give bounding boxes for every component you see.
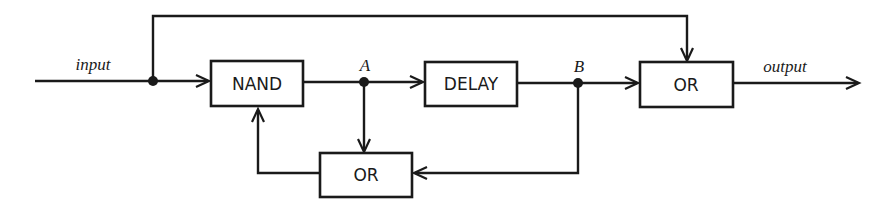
feedback-wire — [258, 110, 320, 173]
nand-label: NAND — [232, 74, 282, 94]
logic-diagram: NAND DELAY OR OR input A B output — [0, 0, 883, 212]
delay-label: DELAY — [444, 74, 499, 94]
or-feedback-label: OR — [353, 165, 378, 185]
signal-b-label: B — [574, 57, 585, 76]
or-output-label: OR — [673, 75, 698, 95]
signal-a-label: A — [359, 56, 371, 75]
b-junction-dot — [573, 78, 583, 88]
input-junction-dot — [148, 76, 158, 86]
input-label: input — [76, 55, 112, 74]
a-junction-dot — [359, 77, 369, 87]
output-label: output — [763, 57, 808, 76]
